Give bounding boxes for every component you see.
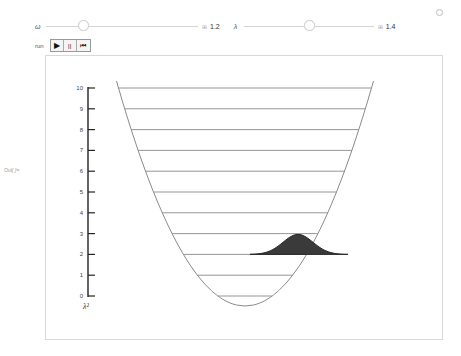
y-tick-label: 2 bbox=[80, 251, 84, 257]
y-tick-label: 7 bbox=[80, 147, 84, 153]
y-tick-label: 9 bbox=[80, 106, 84, 112]
y-tick-label: 3 bbox=[80, 231, 84, 237]
y-tick-label: 10 bbox=[76, 85, 83, 91]
y-tick-label: 1 bbox=[80, 272, 84, 278]
potential-well-plot: 012345678910 λ² bbox=[0, 0, 461, 356]
y-tick-label: 4 bbox=[80, 210, 84, 216]
y-tick-label: 0 bbox=[80, 293, 84, 299]
wave-packet bbox=[250, 234, 348, 254]
y-axis: 012345678910 bbox=[76, 85, 95, 299]
energy-levels bbox=[119, 88, 372, 296]
y-tick-label: 5 bbox=[80, 189, 84, 195]
y-tick-label: 6 bbox=[80, 168, 84, 174]
y-axis-label: λ² bbox=[82, 302, 89, 311]
potential-curve bbox=[117, 81, 374, 306]
y-tick-label: 8 bbox=[80, 127, 84, 133]
